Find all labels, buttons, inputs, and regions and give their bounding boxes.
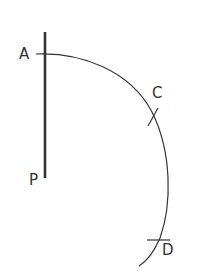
- label-d: D: [162, 243, 174, 258]
- arc-acd: [36, 54, 168, 266]
- label-p: P: [29, 173, 38, 188]
- label-c: C: [152, 86, 162, 101]
- diagram-canvas: A P C D: [0, 0, 197, 271]
- construction-figure: [0, 0, 197, 271]
- label-a: A: [19, 47, 29, 62]
